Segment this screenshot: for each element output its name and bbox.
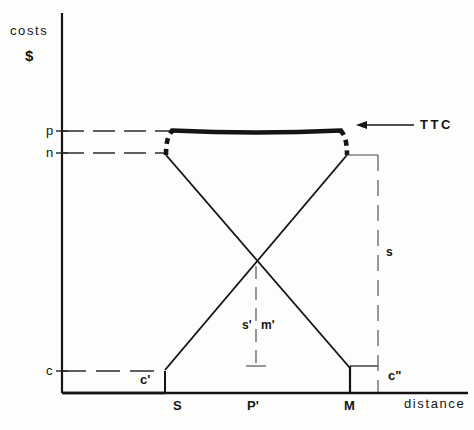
figure-canvas: costs $ p n c c' c" S P' M distance TTC … bbox=[0, 0, 474, 430]
x-tick-label-s: S bbox=[173, 399, 182, 412]
s-measure-label: s bbox=[386, 246, 393, 258]
chart-svg bbox=[0, 0, 474, 430]
ttc-shoulder-left bbox=[166, 131, 173, 156]
ttc-callout-label: TTC bbox=[420, 118, 453, 131]
y-axis-label-dollar: $ bbox=[25, 48, 33, 63]
y-tick-label-c: c bbox=[46, 364, 53, 377]
x-tick-label-p-prime: P' bbox=[247, 399, 259, 412]
c-prime-label: c' bbox=[140, 373, 150, 386]
y-tick-label-p: p bbox=[46, 124, 53, 137]
x-axis-label-distance: distance bbox=[404, 397, 465, 410]
c-double-prime-label: c" bbox=[388, 369, 401, 382]
x-tick-label-m: M bbox=[344, 399, 355, 412]
ttc-shoulder-right bbox=[340, 131, 347, 156]
y-tick-label-n: n bbox=[46, 146, 53, 159]
y-axis-label-costs: costs bbox=[10, 24, 48, 37]
ttc-callout-arrow-head bbox=[356, 121, 367, 129]
ttc-envelope-top bbox=[172, 131, 341, 133]
s-prime-label: s' bbox=[242, 319, 252, 331]
m-prime-label: m' bbox=[261, 319, 275, 331]
